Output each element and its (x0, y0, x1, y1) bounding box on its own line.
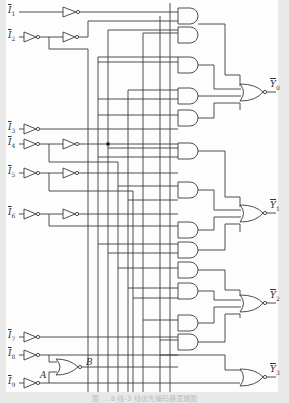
input-label-i9: I9 (8, 377, 15, 388)
input-label-i5: I5 (8, 167, 15, 178)
input-i2-path (19, 21, 178, 392)
input-label-i7: I7 (8, 331, 15, 342)
input-label-i3: I3 (8, 123, 15, 134)
input-i9-path (19, 372, 240, 388)
input-label-i2: I2 (8, 31, 15, 42)
bus-lines (98, 3, 178, 392)
node-label-a: A (40, 371, 47, 380)
input-label-i6: I6 (8, 208, 15, 219)
figure-caption: 图 … 8 线-3 线优先编码器逻辑图 (0, 393, 289, 403)
output-label-y2: Y2 (270, 291, 280, 302)
circuit-diagram (0, 0, 289, 403)
input-i8-path (19, 350, 178, 362)
output-label-y0: Y0 (270, 80, 280, 91)
junction-dot (107, 143, 110, 146)
input-i5-path (19, 168, 178, 392)
input-label-i1: I1 (8, 6, 15, 17)
and-to-nor-wires (160, 24, 241, 370)
input-i1-path (19, 7, 178, 17)
input-i6-path (19, 209, 178, 226)
inverter-icon (63, 7, 76, 17)
and-gates (178, 8, 198, 350)
input-i4-path (19, 139, 178, 392)
input-label-i4: I4 (8, 138, 15, 149)
node-label-b: B (86, 358, 93, 367)
output-label-y3: Y3 (270, 365, 280, 376)
output-label-y1: Y1 (270, 201, 280, 212)
input-i7-path (19, 332, 178, 342)
input-label-i8: I8 (8, 349, 15, 360)
input-i3-path (19, 124, 178, 134)
